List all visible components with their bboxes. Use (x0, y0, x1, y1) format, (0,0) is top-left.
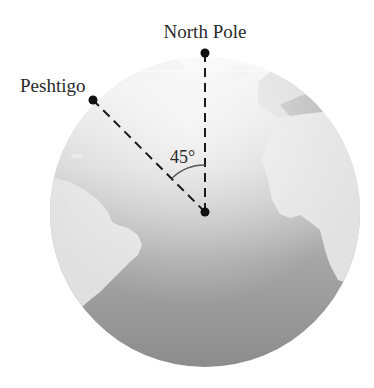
earth-center-point (201, 208, 210, 217)
peshtigo-point (89, 96, 98, 105)
angle-label: 45° (170, 147, 195, 167)
north-pole-label: North Pole (164, 21, 247, 42)
globe-diagram: North Pole Peshtigo 45° (0, 0, 374, 388)
peshtigo-label: Peshtigo (20, 75, 85, 96)
north-pole-point (201, 49, 210, 58)
